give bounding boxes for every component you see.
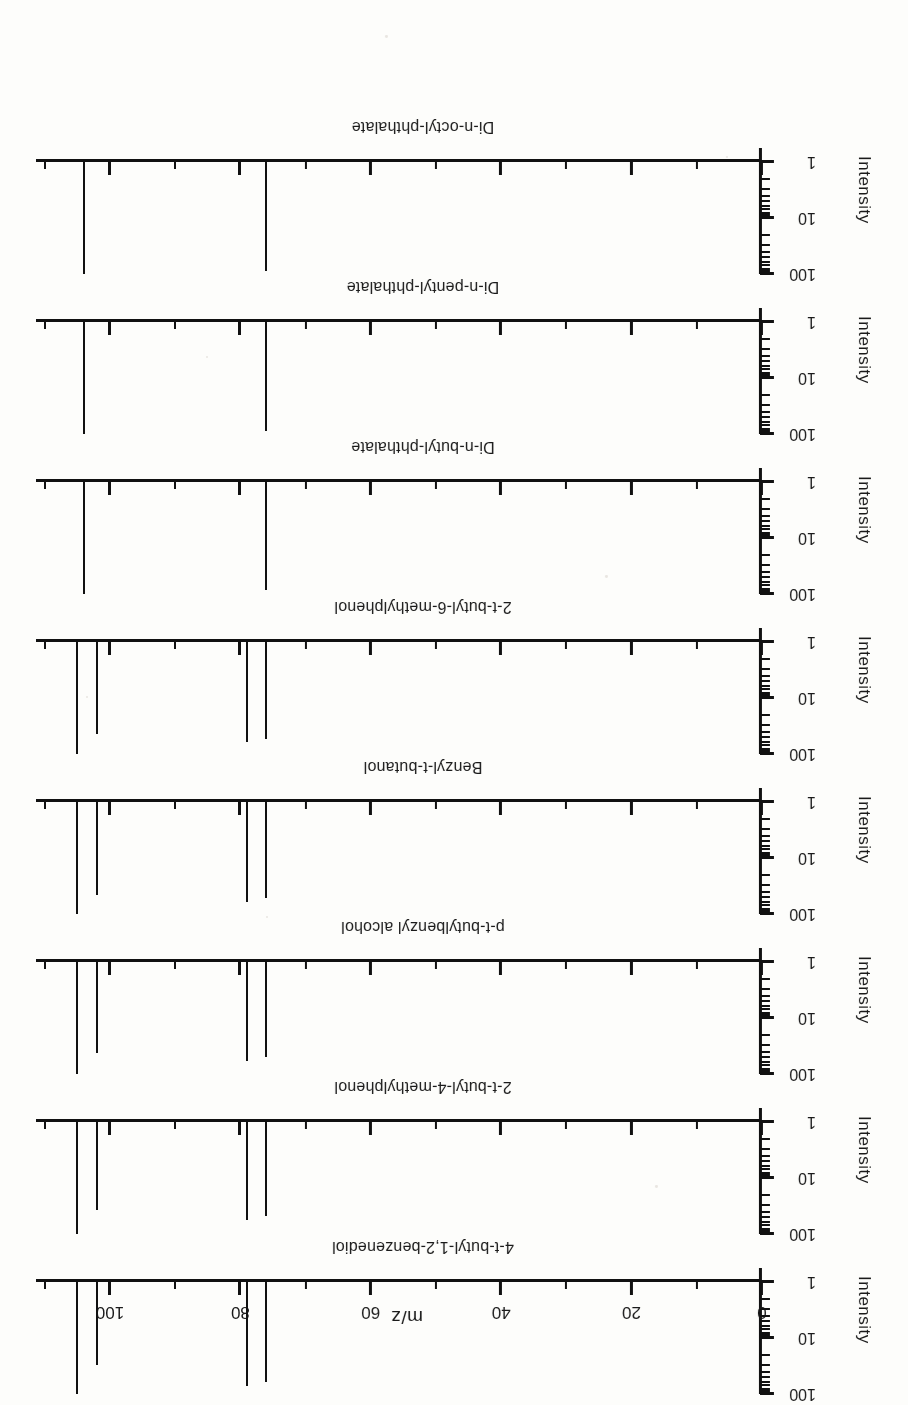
- mz-tick-major: [108, 1282, 111, 1295]
- intensity-tick-minor: [761, 1064, 770, 1066]
- intensity-tick-minor: [761, 515, 770, 517]
- intensity-tick-minor: [761, 1371, 770, 1373]
- intensity-tick-minor: [761, 835, 770, 837]
- mz-tick-major: [630, 962, 633, 975]
- intensity-tick-minor: [761, 188, 770, 190]
- intensity-tick-minor: [761, 411, 770, 413]
- spectrum-panel: 110100Intensity2-t-butyl-4-methylphenol: [0, 1108, 908, 1268]
- mz-tick-minor: [565, 802, 567, 809]
- intensity-axis-title: Intensity: [854, 476, 874, 598]
- mz-tick-label: 0: [757, 1302, 766, 1322]
- intensity-tick-minor: [761, 355, 770, 357]
- mz-tick-major: [499, 1122, 502, 1135]
- intensity-tick-minor: [761, 1376, 770, 1378]
- mz-tick-major: [499, 162, 502, 175]
- intensity-tick-minor: [761, 1228, 770, 1230]
- mz-tick-minor: [305, 1122, 307, 1129]
- intensity-tick-minor: [761, 564, 770, 566]
- intensity-tick-label: 10: [798, 849, 816, 867]
- intensity-tick-minor: [761, 528, 770, 530]
- mz-axis-line: [36, 799, 762, 802]
- intensity-tick-minor: [761, 1224, 770, 1226]
- scan-speck: [605, 575, 608, 578]
- intensity-tick-minor: [761, 1194, 770, 1196]
- intensity-tick-minor: [761, 750, 770, 752]
- intensity-tick-minor: [761, 1390, 770, 1392]
- intensity-tick-minor: [761, 658, 770, 660]
- intensity-tick-minor: [761, 270, 770, 272]
- intensity-tick-minor: [761, 1155, 770, 1157]
- intensity-tick-minor: [761, 365, 770, 367]
- intensity-axis-title: Intensity: [854, 1276, 874, 1398]
- intensity-tick-minor: [761, 1308, 770, 1310]
- spectrum-peak: [246, 642, 248, 742]
- intensity-tick-major: [760, 640, 774, 643]
- mz-tick-minor: [696, 322, 698, 329]
- plot-area: 110100IntensityBenzyl-t-butanol: [0, 788, 908, 948]
- intensity-tick-minor: [761, 588, 770, 590]
- spectrum-peak: [96, 1282, 98, 1365]
- intensity-tick-label: 100: [789, 1225, 816, 1243]
- mz-tick-major: [499, 802, 502, 815]
- intensity-tick-minor: [761, 428, 770, 430]
- intensity-tick-minor: [761, 244, 770, 246]
- mz-tick-minor: [174, 482, 176, 489]
- intensity-tick-minor: [761, 1388, 770, 1390]
- mz-tick-major: [238, 962, 241, 975]
- spectrum-peak: [265, 482, 267, 590]
- spectrum-peak: [265, 962, 267, 1057]
- mz-tick-major: [369, 962, 372, 975]
- intensity-tick-minor: [761, 208, 770, 210]
- intensity-tick-minor: [761, 571, 770, 573]
- scan-speck: [726, 156, 728, 158]
- intensity-tick-minor: [761, 714, 770, 716]
- intensity-tick-label: 10: [798, 1009, 816, 1027]
- spectrum-peak: [76, 642, 78, 754]
- intensity-tick-minor: [761, 1012, 770, 1014]
- mz-tick-minor: [435, 162, 437, 169]
- intensity-tick-minor: [761, 988, 770, 990]
- mz-tick-major: [369, 802, 372, 815]
- intensity-tick-label: 1: [807, 1113, 816, 1131]
- mz-tick-minor: [44, 802, 46, 809]
- spectrum-panel: 110100IntensityDi-n-pentyl-phthalate: [0, 308, 908, 468]
- mz-tick-major: [108, 482, 111, 495]
- mz-tick-minor: [305, 1282, 307, 1289]
- mz-tick-major: [108, 162, 111, 175]
- mz-axis-line: [36, 1119, 762, 1122]
- mz-tick-minor: [435, 962, 437, 969]
- intensity-tick-minor: [761, 852, 770, 854]
- mz-axis-line: [36, 319, 762, 322]
- mz-tick-minor: [305, 962, 307, 969]
- mz-tick-major: [760, 642, 763, 655]
- spectrum-panel: 020406080100110100Intensity4-t-butyl-1,2…: [0, 1268, 908, 1405]
- intensity-tick-minor: [761, 1315, 770, 1317]
- intensity-tick-minor: [761, 995, 770, 997]
- intensity-tick-label: 1: [807, 313, 816, 331]
- intensity-tick-label: 10: [798, 1329, 816, 1347]
- intensity-tick-minor: [761, 724, 770, 726]
- intensity-tick-minor: [761, 1051, 770, 1053]
- intensity-tick-minor: [761, 1168, 770, 1170]
- intensity-tick-minor: [761, 584, 770, 586]
- spectrum-peak: [76, 1282, 78, 1394]
- mz-tick-minor: [565, 1282, 567, 1289]
- intensity-tick-minor: [761, 685, 770, 687]
- intensity-axis-title: Intensity: [854, 956, 874, 1078]
- mz-axis-line: [36, 639, 762, 642]
- intensity-tick-minor: [761, 508, 770, 510]
- intensity-tick-minor: [761, 896, 770, 898]
- intensity-tick-minor: [761, 884, 770, 886]
- intensity-tick-minor: [761, 234, 770, 236]
- intensity-tick-minor: [761, 195, 770, 197]
- mz-tick-label: 100: [96, 1302, 124, 1322]
- mz-tick-minor: [696, 1122, 698, 1129]
- intensity-tick-minor: [761, 404, 770, 406]
- mz-tick-minor: [305, 802, 307, 809]
- mz-tick-minor: [174, 802, 176, 809]
- mz-tick-major: [630, 1122, 633, 1135]
- plot-area: 110100IntensityDi-n-butyl-phthalate: [0, 468, 908, 628]
- mz-tick-minor: [174, 162, 176, 169]
- intensity-tick-minor: [761, 534, 770, 536]
- mz-tick-minor: [565, 962, 567, 969]
